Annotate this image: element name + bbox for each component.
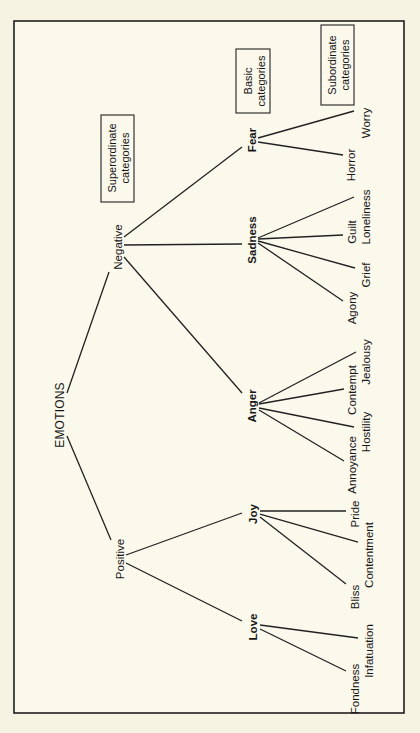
node-contempt: Contempt — [346, 364, 358, 415]
emotion-hierarchy-diagram: Superordinate categories Basic categorie… — [0, 0, 420, 733]
legend-superordinate-line1: Superordinate — [106, 123, 118, 192]
legend-basic-line1: Basic — [242, 67, 254, 94]
legend-basic-line2: categories — [255, 55, 267, 106]
node-horror: Horror — [345, 149, 357, 182]
node-love: Love — [247, 614, 259, 641]
node-sadness: Sadness — [246, 216, 258, 263]
node-annoyance: Annoyance — [346, 436, 358, 494]
node-contentment: Contentment — [363, 521, 375, 588]
node-worry: Worry — [360, 108, 372, 139]
node-infatuation: Infatuation — [363, 624, 375, 678]
node-joy: Joy — [247, 503, 259, 523]
legend-subordinate-line2: categories — [339, 39, 351, 90]
node-pride: Pride — [349, 501, 361, 528]
node-fondness: Fondness — [349, 664, 361, 715]
node-jealousy: Jealousy — [360, 339, 372, 385]
legend-subordinate-line1: Subordinate — [326, 35, 338, 94]
legend-superordinate-line2: categories — [119, 132, 131, 183]
node-loneliness: Loneliness — [360, 189, 372, 244]
node-fear: Fear — [246, 127, 258, 152]
node-positive: Positive — [114, 539, 126, 579]
node-guilt: Guilt — [346, 219, 358, 243]
node-anger: Anger — [246, 389, 258, 423]
node-bliss: Bliss — [349, 585, 361, 610]
node-hostility: Hostility — [360, 412, 372, 453]
node-agony: Agony — [346, 291, 358, 324]
node-emotions: EMOTIONS — [53, 382, 67, 448]
node-grief: Grief — [360, 262, 372, 288]
node-negative: Negative — [112, 224, 124, 269]
